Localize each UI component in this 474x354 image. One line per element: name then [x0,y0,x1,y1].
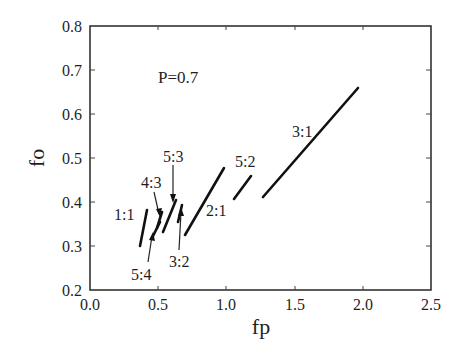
y-tick-label: 0.4 [62,194,82,211]
label-5-3: 5:3 [163,148,183,165]
x-tick-label: 2.0 [353,296,373,313]
x-axis-label: fp [252,314,270,339]
label-5-4: 5:4 [131,266,151,283]
x-tick-label: 0.5 [148,296,168,313]
segment-5-2 [234,176,251,199]
x-tick-label: 0.0 [80,296,100,313]
segment-1-1 [140,210,147,246]
segment-3-1 [263,88,358,197]
y-tick-label: 0.5 [62,150,82,167]
y-axis-label: fo [24,149,49,167]
y-tick-label: 0.6 [62,106,82,123]
y-tick-label: 0.7 [62,62,82,79]
x-tick-label: 1.5 [285,296,305,313]
label-5-2: 5:2 [235,153,255,170]
segment-5-3 [163,200,176,232]
label-3-1: 3:1 [292,123,312,140]
parameter-annotation: P=0.7 [158,68,199,87]
y-tick-label: 0.3 [62,238,82,255]
y-tick-label: 0.2 [62,282,82,299]
x-tick-label: 1.0 [216,296,236,313]
y-axis [90,70,431,246]
x-axis [158,26,363,290]
label-1-1: 1:1 [114,206,134,223]
label-3-2: 3:2 [169,253,189,270]
label-4-3: 4:3 [141,174,161,191]
plot-frame [90,26,431,290]
x-tick-label: 2.5 [421,296,441,313]
y-tick-label: 0.8 [62,18,82,35]
label-2-1: 2:1 [206,202,226,219]
arrowhead-3-2 [178,207,184,216]
chart: 0.8 0.7 0.6 0.5 0.4 0.3 0.2 0.0 0.5 1.0 … [0,0,474,354]
